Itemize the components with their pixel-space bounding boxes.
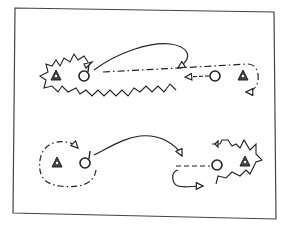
arrow-head-icon	[215, 141, 218, 147]
bottom-drill	[40, 136, 262, 187]
curved-return-arrow	[173, 170, 203, 187]
drill-diagram	[0, 0, 286, 227]
cone-icon	[238, 70, 248, 80]
dashed-pass-line	[185, 76, 209, 77]
player-icon	[79, 62, 92, 81]
diagram-frame	[13, 8, 276, 219]
top-drill	[40, 44, 258, 96]
cone-icon	[240, 156, 250, 166]
player-icon	[80, 151, 90, 168]
dash-dot-pass-line	[103, 64, 258, 92]
arc-pass-path	[94, 44, 188, 70]
player-icon	[212, 160, 222, 170]
arc-pass-path	[94, 136, 182, 156]
player-icon	[210, 71, 220, 81]
cone-icon	[51, 70, 61, 80]
cone-icon	[52, 157, 62, 167]
